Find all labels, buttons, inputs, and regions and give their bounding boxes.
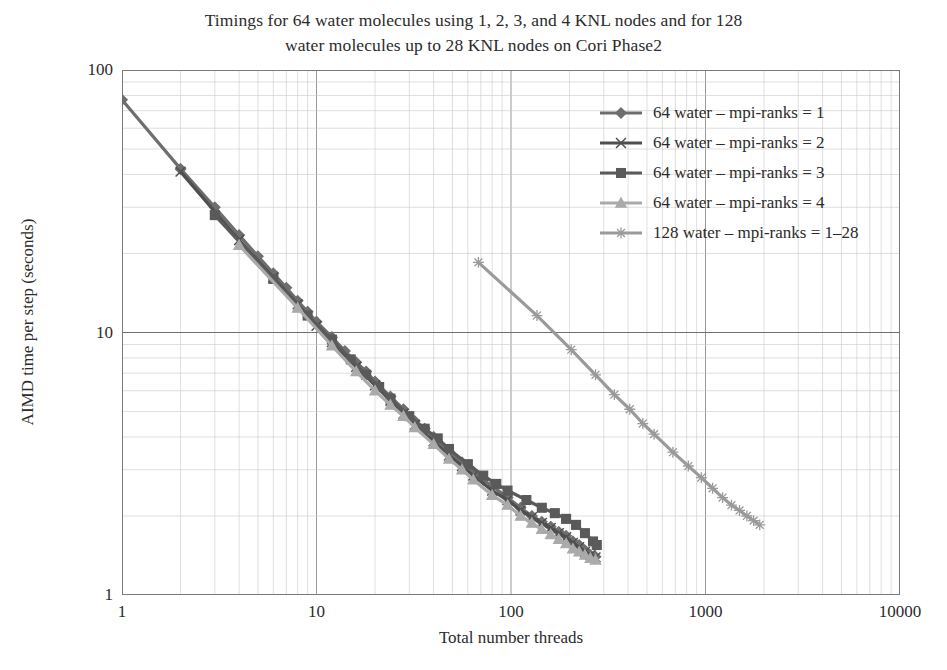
data-marker-star [741, 511, 752, 522]
data-marker-square [550, 509, 559, 518]
y-tick-label: 10 [96, 323, 113, 343]
legend-item[interactable]: 128 water – mpi-ranks = 1–28 [598, 218, 943, 248]
x-tick-label: 100 [498, 602, 524, 622]
legend-item[interactable]: 64 water – mpi-ranks = 3 [598, 158, 943, 188]
legend-label: 64 water – mpi-ranks = 3 [653, 163, 825, 183]
data-marker-square [479, 471, 488, 480]
series-2 [210, 211, 601, 550]
data-marker-star [649, 429, 660, 440]
series-line [181, 172, 596, 558]
data-marker-square [537, 503, 546, 512]
data-marker-square [503, 486, 512, 495]
legend-marker-square-icon [598, 164, 644, 182]
data-marker-star [726, 500, 737, 511]
data-marker-square [581, 529, 590, 538]
data-marker-star [609, 389, 620, 400]
data-marker-star [667, 447, 678, 458]
series-0 [122, 95, 601, 562]
chart-title: Timings for 64 water molecules using 1, … [0, 8, 947, 58]
legend-label: 64 water – mpi-ranks = 4 [653, 193, 825, 213]
chart-legend: 64 water – mpi-ranks = 164 water – mpi-r… [598, 98, 943, 248]
legend-marker-diamond-icon [598, 104, 644, 122]
data-marker-star [566, 344, 577, 355]
data-marker-star [683, 461, 694, 472]
data-marker-square [445, 445, 454, 454]
series-line [215, 215, 597, 545]
data-marker-diamond [616, 108, 626, 118]
data-marker-square [210, 211, 219, 220]
data-marker-square [522, 496, 531, 505]
legend-item[interactable]: 64 water – mpi-ranks = 2 [598, 128, 943, 158]
y-tick-label: 1 [105, 585, 114, 605]
legend-marker-star-icon [598, 224, 644, 242]
data-marker-square [617, 169, 626, 178]
y-axis-label: AIMD time per step (seconds) [18, 132, 38, 512]
x-tick-label: 10000 [879, 602, 922, 622]
legend-label: 128 water – mpi-ranks = 1–28 [653, 223, 859, 243]
data-marker-star [616, 228, 627, 239]
data-marker-star [707, 483, 718, 494]
data-marker-star [734, 505, 745, 516]
chart-figure: Timings for 64 water molecules using 1, … [0, 0, 947, 670]
x-axis-label: Total number threads [122, 628, 900, 648]
data-marker-star [590, 369, 601, 380]
data-marker-star [637, 418, 648, 429]
x-tick-label: 1000 [689, 602, 723, 622]
legend-marker-x-cross-icon [598, 134, 644, 152]
data-marker-star [717, 492, 728, 503]
chart-title-line-2: water molecules up to 28 KNL nodes on Co… [0, 33, 947, 58]
data-marker-square [592, 541, 601, 550]
data-marker-square [463, 460, 472, 469]
x-tick-label: 1 [118, 602, 127, 622]
data-marker-star [624, 404, 635, 415]
chart-title-line-1: Timings for 64 water molecules using 1, … [0, 8, 947, 33]
data-marker-square [492, 479, 501, 488]
legend-label: 64 water – mpi-ranks = 1 [653, 103, 825, 123]
data-marker-star [473, 257, 484, 268]
x-tick-label: 10 [308, 602, 325, 622]
data-marker-star [532, 310, 543, 321]
series-line [122, 100, 596, 557]
legend-label: 64 water – mpi-ranks = 2 [653, 133, 825, 153]
data-marker-square [572, 520, 581, 529]
legend-marker-triangle-icon [598, 194, 644, 212]
series-4 [473, 257, 765, 530]
data-marker-star [754, 519, 765, 530]
y-tick-label: 100 [88, 60, 114, 80]
data-marker-star [696, 472, 707, 483]
series-line [478, 262, 759, 525]
data-marker-square [562, 514, 571, 523]
legend-item[interactable]: 64 water – mpi-ranks = 4 [598, 188, 943, 218]
legend-item[interactable]: 64 water – mpi-ranks = 1 [598, 98, 943, 128]
